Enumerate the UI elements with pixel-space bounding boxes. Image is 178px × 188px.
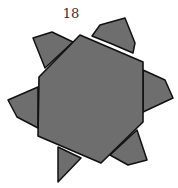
flap-right [143, 70, 173, 112]
geometric-figure [0, 0, 178, 188]
flap-left [8, 87, 38, 128]
